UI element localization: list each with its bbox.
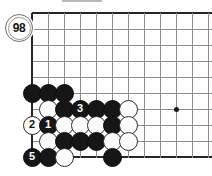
grid-line-vertical: [160, 13, 161, 158]
grid-line-vertical: [144, 13, 145, 158]
caption-label: 98: [13, 21, 26, 35]
grid-line-horizontal: [32, 61, 212, 62]
grid-line-horizontal: [32, 29, 212, 30]
grid-line-horizontal: [32, 77, 212, 78]
grid-line-vertical: [192, 13, 193, 158]
move-number-label: 5: [29, 151, 35, 162]
move-number-caption-98: 98: [5, 14, 33, 42]
board-border-horizontal: [32, 12, 212, 14]
hoshi-right-icon: [174, 107, 179, 112]
stone-c6-r8[interactable]: [119, 132, 138, 151]
grid-line-horizontal: [32, 45, 212, 46]
go-diagram-figure: 3215 98: [0, 0, 212, 176]
stone-c5-r9[interactable]: [103, 148, 122, 167]
move-number-label: 2: [29, 119, 35, 130]
move-number-label: 3: [77, 103, 83, 114]
move-number-label: 1: [45, 119, 51, 130]
stone-c2-r9[interactable]: [55, 148, 74, 167]
grid-line-vertical: [176, 13, 177, 158]
grid-line-vertical: [208, 13, 209, 158]
